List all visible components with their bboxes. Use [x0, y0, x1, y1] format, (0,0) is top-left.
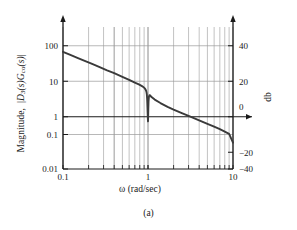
db-tick-label: −40 [239, 164, 254, 174]
db-tick-label: 40 [239, 41, 249, 51]
y-axis-left-arrowhead [60, 15, 65, 22]
y-tick-label: 0.1 [47, 130, 58, 140]
figure-caption: (a) [0, 208, 297, 218]
db-tick-label: 20 [239, 77, 249, 87]
y-tick-label: 10 [49, 77, 59, 87]
x-tick-label: 0.1 [57, 172, 68, 182]
x-tick-label: 10 [229, 172, 239, 182]
db-tick-label: 0 [239, 102, 244, 112]
y-axis-left-label: Magnitude, |D3(s)Gco(s)| [16, 38, 27, 168]
x-axis-tick-labels: 0.1 1 10 [57, 172, 238, 182]
y-axis-left-tick-labels: 100 10 1 0.1 0.01 [42, 41, 58, 174]
bode-magnitude-plot: 100 10 1 0.1 0.01 40 20 0 −20 −40 0.1 1 … [0, 0, 297, 230]
y-axis-label-math: |D3(s)Gco(s)| [16, 54, 26, 105]
zero-db-arrowhead [246, 114, 252, 119]
x-axis-minor-ticks [63, 165, 233, 169]
y-axis-label-text: Magnitude, [16, 108, 26, 153]
x-axis-label: ω (rad/sec) [60, 184, 220, 194]
y-tick-label: 100 [45, 41, 59, 51]
figure-container: 100 10 1 0.1 0.01 40 20 0 −20 −40 0.1 1 … [0, 0, 297, 230]
y-axis-right-arrowhead [230, 15, 235, 22]
y-tick-label: 0.01 [42, 164, 58, 174]
x-tick-label: 1 [146, 172, 151, 182]
db-tick-label: −20 [239, 148, 254, 158]
y-tick-label: 1 [54, 112, 59, 122]
y-axis-right-label: db [263, 82, 273, 112]
y-axis-right-tick-labels: 40 20 0 −20 −40 [239, 41, 254, 174]
